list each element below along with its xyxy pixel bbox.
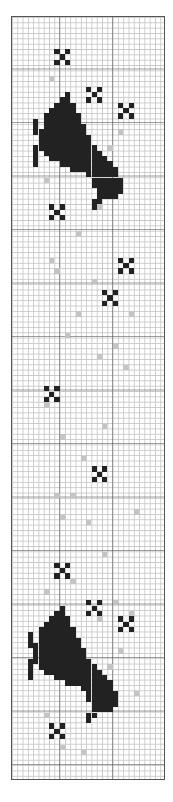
cat-stitch [86, 718, 91, 723]
light-stitch [81, 750, 86, 755]
star-stitch [97, 600, 102, 605]
star-stitch [118, 627, 123, 632]
light-stitch [49, 258, 54, 263]
cat-leg-stitch [28, 675, 33, 680]
cat-stitch [113, 702, 118, 707]
star-stitch [54, 386, 59, 391]
star-stitch [60, 204, 65, 209]
star-stitch [102, 301, 107, 306]
light-stitch [92, 279, 97, 284]
light-stitch [76, 311, 81, 316]
light-stitch [81, 456, 86, 461]
star-stitch [102, 477, 107, 482]
cat-leg-stitch [28, 643, 33, 648]
star-stitch [102, 466, 107, 471]
light-stitch [102, 552, 107, 557]
light-stitch [118, 129, 123, 134]
light-stitch [44, 713, 49, 718]
light-stitch [86, 520, 91, 525]
star-stitch [118, 268, 123, 273]
cat-leg-stitch [33, 145, 38, 150]
light-stitch [102, 424, 107, 429]
star-stitch [65, 563, 70, 568]
star-stitch [113, 301, 118, 306]
star-stitch [92, 477, 97, 482]
star-stitch [44, 397, 49, 402]
light-stitch [76, 231, 81, 236]
star-stitch [60, 723, 65, 728]
star-stitch [129, 268, 134, 273]
star-stitch [129, 113, 134, 118]
star-stitch [97, 97, 102, 102]
cat-leg-stitch [33, 161, 38, 166]
star-stitch [129, 627, 134, 632]
light-stitch [107, 145, 112, 150]
star-stitch [49, 215, 54, 220]
star-stitch [54, 573, 59, 578]
light-stitch [129, 311, 134, 316]
light-stitch [65, 333, 70, 338]
cat-leg-stitch [33, 129, 38, 134]
light-stitch [44, 402, 49, 407]
light-stitch [49, 76, 54, 81]
light-stitch [113, 600, 118, 605]
star-stitch [65, 49, 70, 54]
light-stitch [60, 434, 65, 439]
light-stitch [118, 648, 123, 653]
light-stitch [54, 493, 59, 498]
star-stitch [60, 215, 65, 220]
cat-leg-stitch [28, 659, 33, 664]
star-stitch [97, 611, 102, 616]
star-stitch [129, 258, 134, 263]
star-stitch [113, 290, 118, 295]
light-stitch [44, 178, 49, 183]
star-stitch [86, 97, 91, 102]
light-stitch [54, 268, 59, 273]
cat-stitch [92, 204, 97, 209]
cat-stitch [113, 194, 118, 199]
light-stitch [123, 365, 128, 370]
light-stitch [97, 204, 102, 209]
light-stitch [134, 691, 139, 696]
light-stitch [107, 664, 112, 669]
cat-stitch [118, 188, 123, 193]
star-stitch [86, 611, 91, 616]
light-stitch [60, 745, 65, 750]
star-stitch [97, 87, 102, 92]
light-stitch [113, 343, 118, 348]
light-stitch [44, 589, 49, 594]
star-stitch [65, 573, 70, 578]
star-stitch [49, 734, 54, 739]
star-stitch [118, 113, 123, 118]
light-stitch [97, 616, 102, 621]
star-stitch [54, 60, 59, 65]
star-stitch [129, 103, 134, 108]
light-stitch [134, 509, 139, 514]
light-stitch [70, 579, 75, 584]
light-stitch [97, 354, 102, 359]
light-stitch [70, 493, 75, 498]
star-stitch [65, 60, 70, 65]
cat-stitch [92, 713, 97, 718]
star-stitch [60, 734, 65, 739]
cat-stitch [107, 707, 112, 712]
pattern-grid [11, 16, 165, 780]
star-stitch [54, 397, 59, 402]
light-stitch [60, 515, 65, 520]
cat-stitch [97, 199, 102, 204]
star-stitch [129, 616, 134, 621]
